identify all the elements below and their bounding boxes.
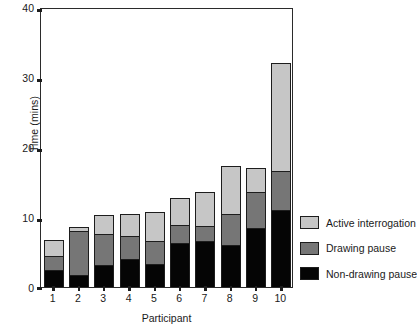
bar-participant-6 (170, 198, 190, 287)
bar-segment-non-drawing-pause (246, 229, 266, 287)
bar-segment-active-interrogation (44, 240, 64, 257)
bar-segment-drawing-pause (94, 235, 114, 266)
bar-segment-active-interrogation (271, 63, 291, 172)
bar-segment-drawing-pause (170, 226, 190, 244)
legend-item-non-drawing-pause: Non-drawing pause (300, 267, 416, 280)
x-tick-label-4: 4 (116, 292, 142, 304)
bar-participant-5 (145, 212, 165, 287)
x-tick-label-6: 6 (166, 292, 192, 304)
bar-segment-active-interrogation (145, 212, 165, 242)
bar-participant-2 (69, 227, 89, 287)
y-tick-label-10: 10 (10, 213, 34, 223)
bar-segment-non-drawing-pause (120, 260, 140, 287)
bar-segment-drawing-pause (44, 257, 64, 271)
legend-item-active-interrogation: Active interrogation (300, 216, 416, 229)
bar-segment-drawing-pause (145, 242, 165, 265)
bar-segment-non-drawing-pause (271, 211, 291, 287)
bar-participant-1 (44, 240, 64, 287)
x-axis-tick-labels: 12345678910 (40, 292, 293, 306)
x-tick-label-7: 7 (191, 292, 217, 304)
x-axis-title: Participant (40, 312, 293, 324)
bar-segment-drawing-pause (246, 193, 266, 229)
bar-segment-active-interrogation (195, 192, 215, 227)
x-tick-mark-8 (230, 286, 232, 291)
legend-swatch-active-interrogation (300, 216, 319, 229)
plot-area (40, 8, 293, 288)
bar-segment-non-drawing-pause (44, 271, 64, 287)
x-tick-mark-4 (128, 286, 130, 291)
bar-participant-4 (120, 214, 140, 287)
bar-segment-drawing-pause (221, 215, 241, 246)
y-axis-tick-labels: 40 30 20 10 0 (10, 0, 34, 335)
y-tick-label-30: 30 (10, 73, 34, 83)
x-tick-label-9: 9 (242, 292, 268, 304)
x-tick-label-1: 1 (40, 292, 66, 304)
bar-segment-active-interrogation (94, 215, 114, 235)
x-tick-mark-10 (280, 286, 282, 291)
bar-segment-drawing-pause (69, 232, 89, 275)
bar-group (41, 9, 292, 287)
bar-participant-7 (195, 192, 215, 287)
legend-label-non-drawing-pause: Non-drawing pause (326, 268, 417, 280)
x-tick-label-5: 5 (141, 292, 167, 304)
x-tick-label-3: 3 (90, 292, 116, 304)
bar-segment-active-interrogation (170, 198, 190, 226)
bar-participant-10 (271, 63, 291, 287)
bar-segment-non-drawing-pause (221, 246, 241, 287)
x-tick-mark-5 (154, 286, 156, 291)
bar-segment-drawing-pause (120, 237, 140, 259)
x-tick-mark-7 (204, 286, 206, 291)
x-tick-mark-3 (103, 286, 105, 291)
x-tick-mark-2 (78, 286, 80, 291)
x-tick-mark-9 (255, 286, 257, 291)
bar-participant-8 (221, 166, 241, 287)
bar-segment-active-interrogation (246, 168, 266, 193)
legend-item-drawing-pause: Drawing pause (300, 242, 416, 255)
legend: Active interrogation Drawing pause Non-d… (300, 216, 416, 293)
bar-segment-non-drawing-pause (94, 266, 114, 287)
legend-swatch-non-drawing-pause (300, 267, 319, 280)
legend-label-drawing-pause: Drawing pause (326, 242, 396, 254)
x-tick-label-2: 2 (65, 292, 91, 304)
bar-segment-active-interrogation (120, 214, 140, 237)
bar-segment-non-drawing-pause (145, 265, 165, 287)
x-tick-mark-1 (52, 286, 54, 291)
legend-label-active-interrogation: Active interrogation (326, 217, 416, 229)
y-tick-label-0: 0 (10, 283, 34, 293)
y-tick-label-20: 20 (10, 143, 34, 153)
x-tick-mark-6 (179, 286, 181, 291)
x-tick-label-10: 10 (267, 292, 293, 304)
bar-segment-non-drawing-pause (170, 244, 190, 287)
bar-segment-non-drawing-pause (195, 242, 215, 287)
y-tick-label-40: 40 (10, 3, 34, 13)
bar-segment-active-interrogation (221, 166, 241, 215)
bar-segment-drawing-pause (271, 172, 291, 211)
bar-participant-9 (246, 168, 266, 287)
y-tick-mark-0 (37, 287, 42, 290)
x-tick-label-8: 8 (217, 292, 243, 304)
bar-participant-3 (94, 215, 114, 287)
legend-swatch-drawing-pause (300, 242, 319, 255)
bar-segment-drawing-pause (195, 227, 215, 242)
